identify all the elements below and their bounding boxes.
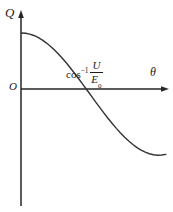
annotation-denominator-base: E	[91, 73, 98, 85]
x-axis-arrowhead	[161, 86, 169, 92]
y-axis-label: Q	[5, 6, 14, 19]
annotation-fraction-numerator: U	[91, 60, 101, 72]
x-axis-label: θ	[150, 66, 156, 78]
annotation-exponent: −1	[81, 67, 89, 75]
annotation-fraction-denominator: E0	[90, 74, 102, 89]
curve-q-theta	[22, 33, 166, 155]
annotation-function-name: cos	[66, 69, 81, 80]
origin-label: O	[9, 81, 17, 92]
plot-area	[0, 0, 173, 212]
figure-container: Q θ O cos−1 U E0	[0, 0, 173, 212]
zero-crossing-annotation: cos−1 U E0	[66, 60, 103, 88]
annotation-fraction: U E0	[90, 60, 102, 88]
annotation-denominator-subscript: 0	[98, 82, 102, 90]
y-axis-arrowhead	[18, 10, 24, 18]
